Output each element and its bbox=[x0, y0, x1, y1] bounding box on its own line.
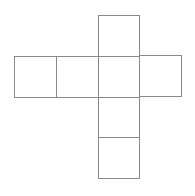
net-face-below bbox=[98, 97, 140, 138]
net-face-top bbox=[98, 15, 140, 57]
net-face-far-left bbox=[14, 56, 57, 98]
net-face-left bbox=[56, 56, 99, 98]
net-face-bottom bbox=[98, 137, 140, 179]
net-face-center bbox=[98, 56, 140, 98]
net-face-right bbox=[139, 55, 182, 97]
